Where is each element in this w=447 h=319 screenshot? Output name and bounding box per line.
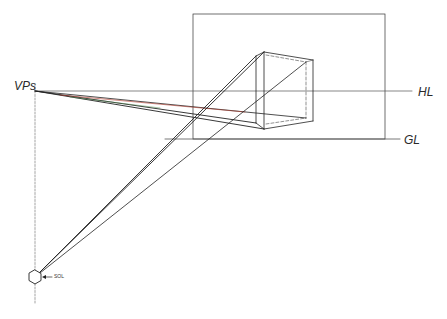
cube-hidden-edge xyxy=(266,55,306,62)
ground-line-label: GL xyxy=(404,134,420,146)
station-point-icon xyxy=(29,270,41,284)
vanishing-point-label: VPs xyxy=(14,80,36,92)
sight-line xyxy=(35,62,306,277)
cube-hidden-edge xyxy=(306,60,313,62)
picture-plane-frame xyxy=(193,14,385,139)
horizon-line-label: HL xyxy=(418,86,433,98)
sight-line xyxy=(35,52,264,277)
arrow-head-icon xyxy=(42,275,46,279)
station-point-label: SOL xyxy=(54,274,64,279)
cube-edge xyxy=(264,121,313,129)
vp-projection-line xyxy=(35,91,306,118)
perspective-diagram xyxy=(0,0,447,319)
